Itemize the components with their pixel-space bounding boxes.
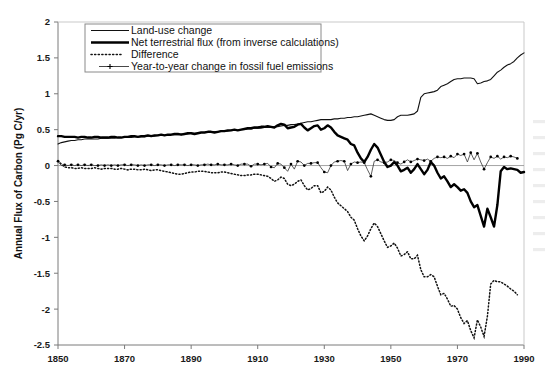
page-bleedthrough-text <box>533 120 545 251</box>
fossil-marker-point <box>276 162 279 165</box>
y-tick-label: 1.5 <box>37 52 51 63</box>
x-tick-label: 1950 <box>380 353 401 364</box>
legend-item-label: Net terrestrial flux (from inverse calcu… <box>131 36 339 48</box>
fossil-marker-point <box>117 164 120 167</box>
fossil-marker-point <box>429 160 432 163</box>
fossil-marker-point <box>70 163 73 166</box>
x-tick-label: 1890 <box>181 353 202 364</box>
fossil-marker-point <box>143 164 146 167</box>
x-tick-label: 1850 <box>47 353 68 364</box>
bleedthrough-mark <box>533 232 545 235</box>
fossil-marker-point <box>157 163 160 166</box>
fossil-marker-point <box>296 160 299 163</box>
fossil-marker-point <box>396 161 399 164</box>
x-tick-label: 1910 <box>247 353 268 364</box>
fossil-marker-point <box>130 163 133 166</box>
fossil-marker-point <box>63 163 66 166</box>
y-tick-label: 2 <box>45 16 50 27</box>
fossil-marker-point <box>423 159 426 162</box>
y-axis-title-text: Annual Flux of Carbon (Pg C/yr) <box>13 108 24 260</box>
legend-item-fossil_fuel_change: Year-to-year change in fossil fuel emiss… <box>99 60 333 72</box>
chart-legend: Land-use changeNet terrestrial flux (fro… <box>85 24 339 72</box>
fossil-marker-point <box>230 163 233 166</box>
legend-item-label: Land-use change <box>131 24 212 36</box>
bleedthrough-mark <box>533 168 545 171</box>
fossil-marker-point <box>409 161 412 164</box>
fossil-marker-point <box>216 163 219 166</box>
bleedthrough-mark <box>533 184 545 187</box>
fossil-marker-point <box>516 157 519 160</box>
fossil-marker-point <box>483 168 486 171</box>
fossil-marker-point <box>363 161 366 164</box>
fossil-marker-point <box>263 163 266 166</box>
x-tick-label: 1990 <box>513 353 534 364</box>
fossil-marker-point <box>509 155 512 158</box>
bleedthrough-mark <box>533 152 545 155</box>
carbon-flux-line-chart: 21.510.50-0.5-1-1.5-2-2.5185018701890191… <box>0 0 550 389</box>
series-line-fossil_fuel_change <box>58 153 517 177</box>
fossil-marker-point <box>90 163 93 166</box>
fossil-marker-point <box>323 171 326 174</box>
fossil-marker-point <box>183 163 186 166</box>
y-tick-label: -0.5 <box>34 196 51 207</box>
fossil-marker-point <box>356 161 359 164</box>
fossil-marker-point <box>403 161 406 164</box>
series-line-difference <box>58 161 517 338</box>
fossil-marker-point <box>316 161 319 164</box>
fossil-marker-point <box>436 156 439 159</box>
fossil-marker-point <box>503 156 506 159</box>
x-tick-label: 1970 <box>447 353 468 364</box>
fossil-marker-point <box>343 160 346 163</box>
fossil-marker-point <box>456 153 459 156</box>
fossil-marker-point <box>190 163 193 166</box>
fossil-marker-point <box>283 166 286 169</box>
y-tick-label: -2.5 <box>34 339 51 350</box>
fossil-marker-point <box>330 164 333 167</box>
chart-container: 21.510.50-0.5-1-1.5-2-2.5185018701890191… <box>0 0 550 389</box>
fossil-marker-point <box>336 160 339 163</box>
fossil-marker-point <box>290 163 293 166</box>
fossil-marker-point <box>103 164 106 167</box>
bleedthrough-mark <box>533 200 545 203</box>
fossil-marker-point <box>110 164 113 167</box>
fossil-marker-point <box>270 166 273 169</box>
fossil-marker-point <box>370 175 373 178</box>
fossil-marker-point <box>223 163 226 166</box>
y-tick-label: 1 <box>45 88 51 99</box>
fossil-marker-point <box>443 156 446 159</box>
bleedthrough-mark <box>533 216 545 219</box>
fossil-marker-point <box>210 163 213 166</box>
y-tick-label: -1.5 <box>34 268 51 279</box>
y-tick-label: 0.5 <box>37 124 51 135</box>
fossil-marker-point <box>303 164 306 167</box>
fossil-marker-point <box>416 158 419 161</box>
fossil-marker-point <box>236 164 239 167</box>
legend-item-label: Difference <box>131 48 179 60</box>
series-line-net_terrestrial_flux <box>58 124 524 227</box>
fossil-marker-point <box>489 156 492 159</box>
fossil-marker-point <box>350 163 353 166</box>
fossil-marker-point <box>469 151 472 154</box>
fossil-marker-point <box>83 163 86 166</box>
fossil-marker-point <box>196 164 199 167</box>
bleedthrough-mark <box>533 120 545 123</box>
y-axis-title: Annual Flux of Carbon (Pg C/yr) <box>13 108 24 260</box>
series-lines <box>57 53 524 338</box>
fossil-marker-point <box>163 164 166 167</box>
fossil-marker-point <box>383 161 386 164</box>
fossil-marker-point <box>243 163 246 166</box>
fossil-marker-point <box>476 152 479 155</box>
fossil-marker-point <box>496 155 499 158</box>
fossil-marker-point <box>203 163 206 166</box>
bleedthrough-mark <box>533 248 545 251</box>
fossil-marker-point <box>376 158 379 161</box>
y-tick-label: -1 <box>42 232 51 243</box>
fossil-marker-point <box>250 165 253 168</box>
legend-item-label: Year-to-year change in fossil fuel emiss… <box>131 60 333 72</box>
fossil-marker-point <box>256 163 259 166</box>
fossil-marker-point <box>449 155 452 158</box>
x-tick-label: 1930 <box>314 353 335 364</box>
y-tick-label: -2 <box>42 304 50 315</box>
bleedthrough-mark <box>533 136 545 139</box>
fossil-marker-point <box>137 164 140 167</box>
